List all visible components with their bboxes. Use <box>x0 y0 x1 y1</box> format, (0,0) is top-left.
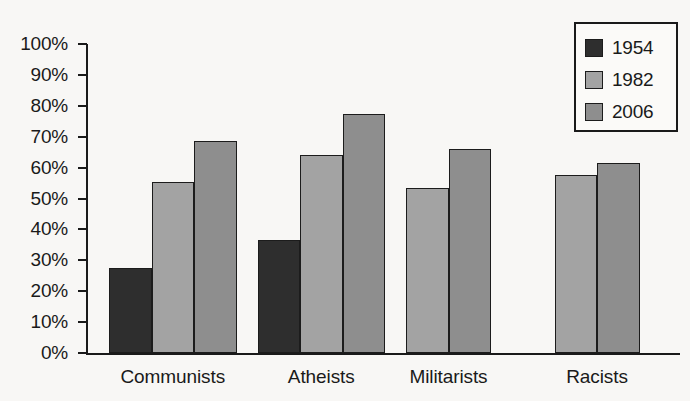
y-axis-tick-mark <box>78 105 87 107</box>
x-axis-category-labels: CommunistsAtheistsMilitaristsRacists <box>0 362 690 401</box>
y-axis-tick-label: 0% <box>41 342 68 364</box>
y-axis-tick-mark <box>78 74 87 76</box>
bar <box>152 182 195 353</box>
bar <box>343 114 386 353</box>
y-axis-tick-label: 100% <box>20 33 68 55</box>
y-axis-tick-mark <box>78 43 87 45</box>
y-axis-tick-mark <box>78 136 87 138</box>
bar <box>300 155 343 353</box>
x-axis-line <box>86 353 680 355</box>
y-axis-tick-label: 50% <box>31 188 68 210</box>
y-axis-tick-mark <box>78 228 87 230</box>
y-axis-tick-mark <box>78 290 87 292</box>
legend-swatch <box>585 103 603 121</box>
legend-label: 2006 <box>612 101 653 123</box>
legend-swatch <box>585 39 603 57</box>
y-axis-tick-label: 90% <box>31 64 68 86</box>
x-axis-category-label: Racists <box>566 366 628 388</box>
y-axis-tick-label: 20% <box>31 280 68 302</box>
y-axis-tick-label: 60% <box>31 157 68 179</box>
legend-item: 1982 <box>585 64 676 96</box>
y-axis-tick-mark <box>78 352 87 354</box>
y-axis-tick-mark <box>78 167 87 169</box>
y-axis-tick-label: 10% <box>31 311 68 333</box>
legend-label: 1954 <box>612 37 653 59</box>
bar <box>449 149 492 353</box>
x-axis-category-label: Atheists <box>288 366 355 388</box>
legend: 195419822006 <box>574 22 678 132</box>
y-axis-tick-label: 30% <box>31 249 68 271</box>
bar <box>597 163 640 353</box>
bar <box>258 240 301 353</box>
x-axis-category-label: Communists <box>120 366 225 388</box>
x-axis-category-label: Militarists <box>409 366 487 388</box>
legend-label: 1982 <box>612 69 653 91</box>
legend-swatch <box>585 71 603 89</box>
legend-item: 1954 <box>585 32 676 64</box>
bar-chart: 0%10%20%30%40%50%60%70%80%90%100% Commun… <box>0 0 690 401</box>
y-axis-tick-label: 80% <box>31 95 68 117</box>
y-axis-tick-label: 40% <box>31 218 68 240</box>
bar <box>555 175 598 353</box>
y-axis: 0%10%20%30%40%50%60%70%80%90%100% <box>0 0 78 401</box>
y-axis-tick-mark <box>78 321 87 323</box>
y-axis-tick-mark <box>78 259 87 261</box>
bar <box>194 141 237 353</box>
legend-item: 2006 <box>585 96 676 128</box>
y-axis-tick-mark <box>78 198 87 200</box>
y-axis-tick-label: 70% <box>31 126 68 148</box>
bar <box>109 268 152 353</box>
bar <box>406 188 449 353</box>
